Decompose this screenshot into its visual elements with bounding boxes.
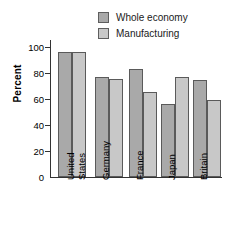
- legend-item-whole-economy: Whole economy: [98, 11, 188, 24]
- y-tick-label: 60: [33, 95, 44, 104]
- x-category-label-japan: Japan: [167, 154, 178, 180]
- y-tick-label: 20: [33, 147, 44, 156]
- x-category-label-britain: Britain: [199, 153, 210, 180]
- y-tick-label: 0: [39, 173, 44, 182]
- x-axis-category-labels: United States Germany France Japan Brita…: [51, 178, 222, 242]
- y-tick-label: 80: [33, 69, 44, 78]
- bar-chart: Whole economy Manufacturing Percent 0 20…: [0, 0, 230, 242]
- y-axis-tick-labels: 0 20 40 60 80 100: [22, 0, 44, 242]
- legend-label: Whole economy: [116, 12, 188, 23]
- legend-swatch-icon: [98, 12, 109, 23]
- legend-label: Manufacturing: [116, 28, 179, 39]
- y-tick-label: 40: [33, 121, 44, 130]
- x-category-label-germany: Germany: [101, 141, 112, 180]
- x-category-label-united-states: United States: [66, 153, 87, 180]
- y-axis-title: Percent: [12, 89, 23, 103]
- legend-item-manufacturing: Manufacturing: [98, 27, 188, 40]
- chart-legend: Whole economy Manufacturing: [98, 11, 188, 40]
- x-category-label-france: France: [135, 150, 146, 180]
- y-tick-label: 100: [28, 43, 44, 52]
- legend-swatch-icon: [98, 28, 109, 39]
